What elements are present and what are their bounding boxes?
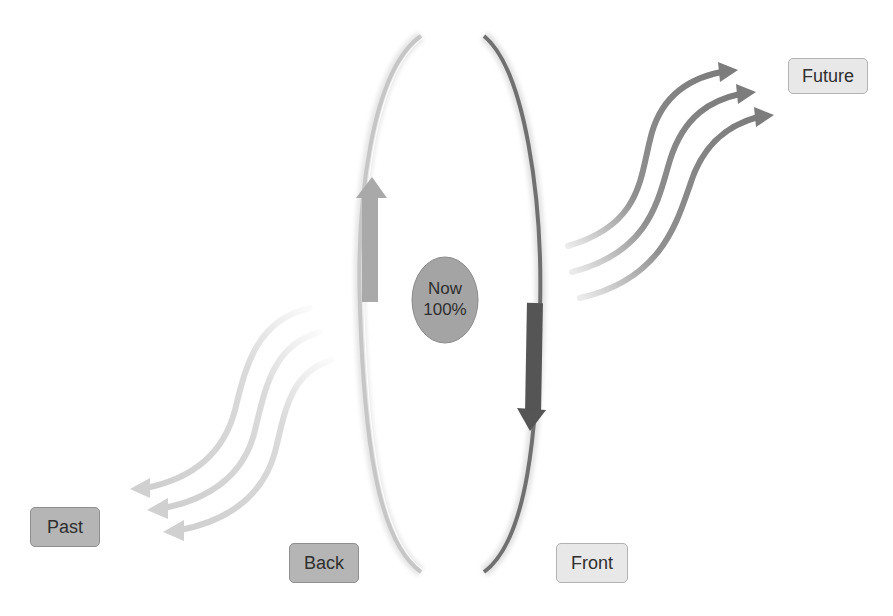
future-arrows [568,62,774,298]
past-arrow-icon [130,308,310,498]
future-label: Future [788,58,868,94]
past-arrows [130,308,332,541]
down-arrow-icon [517,303,546,431]
past-arrow-icon [147,332,320,519]
now-label-line1: Now [412,278,478,299]
now-label: Now 100% [412,278,478,320]
now-label-line2: 100% [412,299,478,320]
front-label: Front [556,543,628,583]
future-arrow-icon [568,62,738,246]
time-flow-diagram: Now 100% Past Back Front Future [0,0,893,616]
back-label: Back [289,543,359,583]
past-label: Past [30,507,100,547]
